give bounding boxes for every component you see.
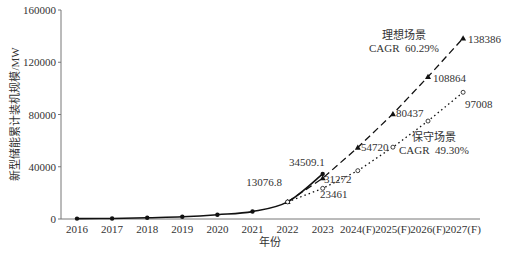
marker-triangle: [390, 111, 396, 116]
scenario-cons-cagr: CAGR 49.30%: [399, 144, 469, 156]
marker-circle: [250, 209, 254, 213]
marker-circle: [75, 216, 79, 220]
y-tick-label: 160000: [23, 4, 57, 16]
chart-container: 0400008000012000016000020162017201820192…: [0, 0, 505, 256]
marker-circle: [110, 216, 114, 220]
marker-triangle: [460, 35, 466, 40]
marker-circle: [180, 215, 184, 219]
label-2023-ideal: 31272: [324, 173, 352, 185]
y-tick-label: 80000: [29, 109, 57, 121]
marker-open-circle: [286, 200, 290, 204]
marker-open-circle: [356, 169, 360, 173]
series-line-0: [77, 174, 323, 219]
marker-open-circle: [461, 90, 465, 94]
annotations: 13076.8 34509.1 31272 23461 54720 80437 …: [246, 28, 501, 200]
x-tick-label: 2026(F): [410, 223, 446, 236]
x-tick-label: 2018: [136, 223, 159, 235]
scenario-ideal-title: 理想场景: [382, 28, 426, 41]
x-tick-label: 2016: [66, 223, 89, 235]
x-tick-label: 2020: [206, 223, 229, 235]
label-2022: 13076.8: [246, 176, 282, 188]
x-tick-label: 2024(F): [340, 223, 376, 236]
label-2027-cons: 97008: [465, 98, 493, 110]
label-2023-cons: 23461: [320, 188, 348, 200]
label-2023-actual: 34509.1: [289, 156, 325, 168]
x-tick-label: 2023: [312, 223, 335, 235]
x-tick-label: 2017: [101, 223, 124, 235]
marker-open-circle: [391, 145, 395, 149]
series-group: [75, 35, 466, 221]
x-axis-title: 年份: [259, 235, 281, 248]
x-tick-label: 2027(F): [445, 223, 481, 236]
x-tick-label: 2025(F): [375, 223, 411, 236]
series-line-1: [288, 38, 464, 202]
marker-circle: [215, 212, 219, 216]
label-2027-ideal: 138386: [468, 33, 502, 45]
y-axis-title: 新型储能累计装机规模/MW: [8, 47, 21, 181]
y-tick-label: 0: [51, 213, 57, 225]
x-tick-label: 2022: [277, 223, 299, 235]
y-tick-label: 120000: [23, 56, 57, 68]
label-2024-ideal: 54720: [361, 141, 389, 153]
x-tick-label: 2021: [242, 223, 264, 235]
y-tick-label: 40000: [29, 161, 57, 173]
x-tick-label: 2019: [171, 223, 194, 235]
line-chart: 0400008000012000016000020162017201820192…: [0, 0, 505, 256]
label-2025-ideal: 80437: [396, 107, 424, 119]
marker-open-circle: [426, 119, 430, 123]
marker-circle: [145, 215, 149, 219]
scenario-ideal-cagr: CAGR 60.29%: [369, 42, 439, 54]
label-2026-ideal: 108864: [433, 72, 467, 84]
scenario-cons-title: 保守场景: [412, 130, 456, 143]
